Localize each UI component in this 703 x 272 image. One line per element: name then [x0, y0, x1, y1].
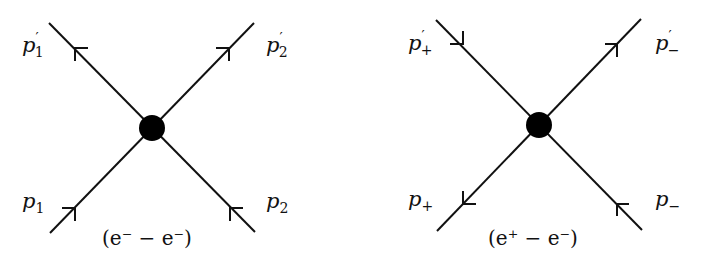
label-p1: p1 [22, 189, 44, 216]
caption-electron-electron: (e⁻ − e⁻) [102, 226, 192, 250]
vertex-dot [526, 112, 552, 138]
feynman-diagrams: p′1 p′2 p1 p2 (e⁻ − e⁻) p′+ p′− p+ p− (e… [0, 0, 703, 272]
label-p-minus-prime: p′− [655, 28, 679, 58]
label-p1-prime: p′1 [22, 30, 44, 60]
caption-positron-electron: (e⁺ − e⁻) [488, 226, 578, 250]
label-p2-prime: p′2 [266, 30, 288, 60]
label-p-minus: p− [655, 187, 680, 214]
vertex-dot [139, 115, 165, 141]
label-p-plus-prime: p′+ [408, 28, 432, 58]
diagram-electron-electron: p′1 p′2 p1 p2 (e⁻ − e⁻) [22, 23, 288, 250]
diagram-positron-electron: p′+ p′− p+ p− (e⁺ − e⁻) [408, 19, 680, 250]
label-p2: p2 [266, 189, 288, 216]
label-p-plus: p+ [408, 187, 433, 214]
